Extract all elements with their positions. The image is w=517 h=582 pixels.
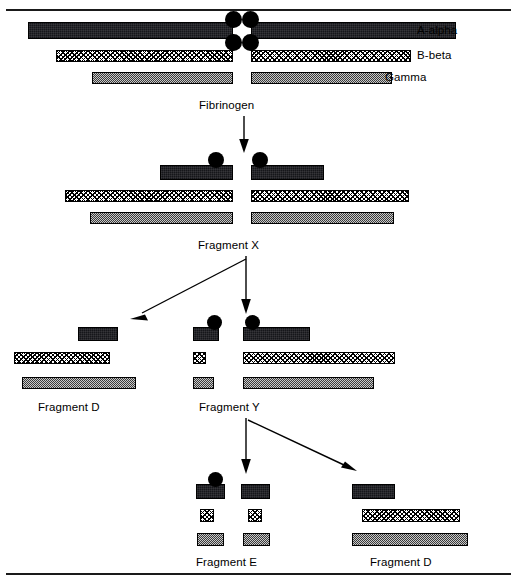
fibrinogen-aalpha-left [28,22,233,39]
fragment-d-left-bbeta [14,352,110,364]
top-border-rule [6,9,511,11]
fragment-x-bbeta-right [251,190,409,202]
fragment-x-gamma-left [90,212,233,224]
fibrinopeptide-knob-left-lower [225,34,242,51]
arrow-fibrinogen-to-fragment-x [236,116,252,154]
stage-label-fragment-x: Fragment X [198,239,259,252]
fibrinopeptide-knob-right-lower [242,34,259,51]
fragment-x-bbeta-left [65,190,233,202]
fragment-y-gamma-left [193,377,214,389]
fragment-x-knob-left [208,152,224,168]
legend-label-gamma: Gamma [385,71,426,84]
fibrinopeptide-knob-right-upper [242,11,259,28]
arrow-fragment-x-to-fragment-y [238,256,254,316]
fragment-y-knob-right [245,315,260,330]
fragment-e-gamma-right [243,533,270,546]
stage-label-fragment-y: Fragment Y [199,401,260,414]
fragment-e-gamma-left [197,533,224,546]
fibrinogen-degradation-figure: A-alpha B-beta Gamma Fibrinogen Fragment… [0,0,517,582]
stage-label-fragment-e: Fragment E [196,556,257,569]
stage-label-fibrinogen: Fibrinogen [199,99,254,112]
legend-label-bbeta: B-beta [417,49,451,62]
fragment-d-bottom-gamma [352,533,468,546]
fibrinopeptide-knob-left-upper [225,11,242,28]
fragment-d-bottom-aalpha [352,484,395,499]
fragment-e-bbeta-right [248,509,262,522]
fibrinogen-bbeta-right [251,50,411,62]
bottom-border-rule [6,573,511,575]
fragment-y-bbeta-left [193,352,206,364]
stage-label-fragment-d-left: Fragment D [38,401,100,414]
fragment-e-bbeta-left [200,509,214,522]
fragment-y-knob-left [207,315,222,330]
arrow-fragment-x-to-fragment-d [120,256,250,326]
fragment-e-knob [208,472,223,487]
fragment-d-left-gamma [22,377,136,389]
fragment-y-gamma-right [243,377,374,389]
fragment-d-bottom-bbeta [362,509,460,522]
fibrinogen-bbeta-left [56,50,233,62]
stage-label-fragment-d-bottom: Fragment D [370,556,432,569]
fibrinogen-gamma-right [251,72,392,84]
fragment-e-aalpha-left [196,484,225,499]
fibrinogen-gamma-left [92,72,233,84]
fragment-y-bbeta-right [243,352,395,364]
fragment-x-gamma-right [251,212,394,224]
fragment-x-knob-right [252,152,268,168]
legend-label-aalpha: A-alpha [417,24,457,37]
fragment-d-left-aalpha [78,327,118,341]
fragment-x-aalpha-left [160,165,233,180]
fragment-e-aalpha-right [241,484,270,499]
arrow-fragment-y-to-fragment-d [244,418,364,476]
